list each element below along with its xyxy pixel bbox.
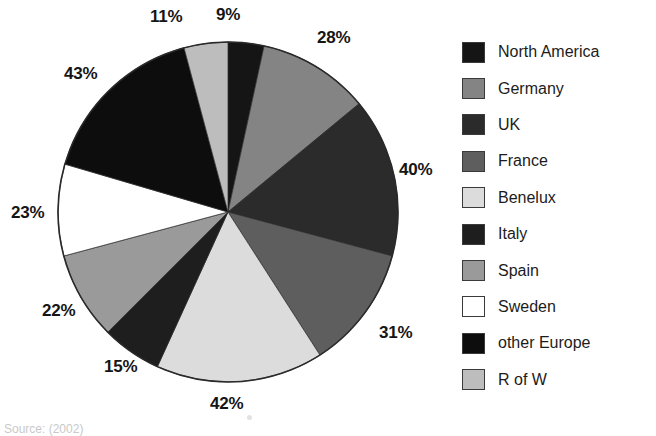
pie-percentage-label: 22% <box>42 302 75 319</box>
pie-percentage-label: 43% <box>64 65 97 82</box>
legend-label: Italy <box>498 226 527 242</box>
pie-percentage-label: 42% <box>210 395 243 412</box>
legend-item-germany: Germany <box>462 70 652 106</box>
source-note: Source: (2002) <box>4 422 83 436</box>
legend-item-benelux: Benelux <box>462 180 652 216</box>
legend-item-north-america: North America <box>462 34 652 70</box>
legend-item-italy: Italy <box>462 216 652 252</box>
pie-percentage-label: 40% <box>399 161 432 178</box>
legend-label: R of W <box>498 372 547 388</box>
pie-percentage-label: 15% <box>104 358 137 375</box>
pie-percentage-label: 31% <box>379 324 412 341</box>
pie-percentage-label: 23% <box>11 204 44 221</box>
legend-item-other-europe: other Europe <box>462 325 652 361</box>
legend-label: UK <box>498 117 520 133</box>
legend-item-spain: Spain <box>462 252 652 288</box>
legend-label: North America <box>498 44 599 60</box>
chart-legend: North AmericaGermanyUKFranceBeneluxItaly… <box>462 34 652 398</box>
legend-label: Benelux <box>498 190 556 206</box>
legend-swatch <box>462 151 485 172</box>
scan-artifact-speck <box>247 415 252 420</box>
legend-label: other Europe <box>498 335 591 351</box>
legend-label: Spain <box>498 263 539 279</box>
legend-swatch <box>462 114 485 135</box>
legend-label: Sweden <box>498 299 556 315</box>
legend-item-sweden: Sweden <box>462 289 652 325</box>
legend-item-uk: UK <box>462 107 652 143</box>
legend-swatch <box>462 260 485 281</box>
legend-swatch <box>462 333 485 354</box>
legend-swatch <box>462 78 485 99</box>
pie-percentage-label: 9% <box>216 6 240 23</box>
pie-percentage-label: 11% <box>150 8 183 25</box>
legend-label: Germany <box>498 81 564 97</box>
pie-slice-group <box>58 42 398 382</box>
legend-label: France <box>498 153 548 169</box>
legend-swatch <box>462 369 485 390</box>
legend-swatch <box>462 42 485 63</box>
legend-swatch <box>462 187 485 208</box>
legend-swatch <box>462 296 485 317</box>
legend-item-france: France <box>462 143 652 179</box>
pie-percentage-label: 28% <box>317 29 350 46</box>
legend-item-r-of-w: R of W <box>462 362 652 398</box>
legend-swatch <box>462 224 485 245</box>
